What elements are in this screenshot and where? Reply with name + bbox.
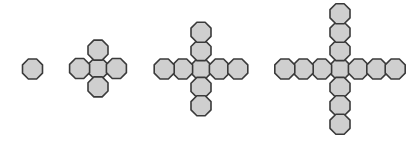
octagon-tile (275, 59, 295, 79)
octagon-tile (293, 59, 313, 79)
octagon-tile (330, 4, 350, 24)
octagon-tile (173, 59, 193, 79)
octagon-tile (70, 59, 90, 79)
figure-step-2 (70, 40, 127, 97)
octagon-tile (191, 59, 211, 79)
octagon-tile (330, 77, 350, 97)
figure-step-3 (154, 22, 248, 116)
octagon-tile (330, 22, 350, 42)
octagon-tile (312, 59, 332, 79)
octagon-tile (330, 41, 350, 61)
octagon-tile (23, 59, 43, 79)
octagon-tile (88, 77, 108, 97)
octagon-tile (106, 59, 126, 79)
octagon-tile (191, 96, 211, 116)
octagon-tile (385, 59, 405, 79)
octagon-tile (330, 96, 350, 116)
octagon-tile (209, 59, 229, 79)
octagon-tile (367, 59, 387, 79)
octagon-tile (191, 22, 211, 42)
octagon-tile (330, 59, 350, 79)
figure-step-1 (23, 59, 43, 79)
octagon-tile (228, 59, 248, 79)
octagon-tile (191, 77, 211, 97)
octagon-tile (348, 59, 368, 79)
octagon-tile (88, 40, 108, 60)
octagon-tile (154, 59, 174, 79)
figure-step-4 (275, 4, 405, 134)
octagon-tile (191, 41, 211, 61)
octagon-tile (88, 59, 108, 79)
octagon-pattern-diagram (0, 0, 420, 143)
octagon-tile (330, 114, 350, 134)
